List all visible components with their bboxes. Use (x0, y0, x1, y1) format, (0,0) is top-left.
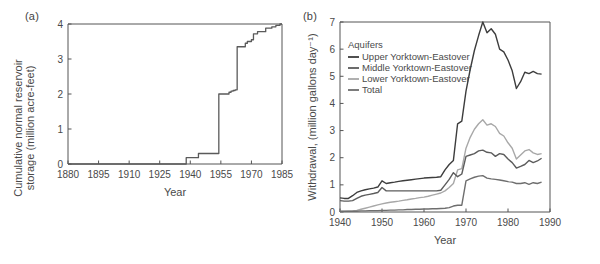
panel-b-y-axis-title: Withdrawal, (million gallons day⁻¹) (306, 33, 318, 200)
panel-a-x-tick-label: 1880 (57, 169, 80, 180)
panel-b-y-tick-label: 4 (329, 98, 335, 109)
panel-a-x-tick-label: 1895 (87, 169, 110, 180)
panel-b-y-tick-label: 0 (329, 207, 335, 218)
panel-a-x-tick-label: 1985 (271, 169, 294, 180)
panel-a: (a) 012341880189519101925194019551970198… (0, 0, 300, 264)
panel-a-x-tick-label: 1910 (118, 169, 141, 180)
panel-b-y-tick-label: 6 (329, 44, 335, 55)
panel-b-x-tick-label: 1980 (497, 217, 520, 228)
panel-a-y-tick-label: 3 (57, 54, 63, 65)
panel-b: (b) 01234567194019501960197019801990Aqui… (300, 0, 600, 264)
panel-b-y-tick-label: 7 (329, 17, 335, 28)
panel-b-y-tick-label: 5 (329, 71, 335, 82)
panel-a-x-tick-label: 1940 (179, 169, 202, 180)
panel-b-plot: 01234567194019501960197019801990Aquifers… (300, 0, 600, 264)
panel-b-x-tick-label: 1940 (329, 217, 352, 228)
legend-title: Aquifers (348, 39, 383, 50)
panel-b-x-tick-label: 1990 (539, 217, 562, 228)
panel-b-y-tick-label: 2 (329, 152, 335, 163)
legend-label-0: Upper Yorktown-Eastover (362, 51, 470, 62)
panel-b-series-lower-yorktown-eastover (340, 120, 542, 212)
panel-a-y-tick-label: 2 (57, 89, 63, 100)
panel-b-x-tick-label: 1970 (455, 217, 478, 228)
panel-a-x-tick-label: 1925 (149, 169, 172, 180)
panel-a-x-tick-label: 1970 (240, 169, 263, 180)
legend-label-2: Lower Yorktown-Eastover (362, 73, 470, 84)
panel-a-y-axis-title-line2: storage (million acre-feet) (24, 66, 36, 191)
panel-a-plot: 0123418801895191019251940195519701985Yea… (0, 0, 300, 264)
panel-a-x-tick-label: 1955 (210, 169, 233, 180)
panel-a-y-axis-title-line1: Cumulative normal reservoir (12, 59, 24, 197)
panel-a-storage-curve (68, 24, 282, 164)
figure-container: (a) 012341880189519101925194019551970198… (0, 0, 600, 264)
panel-a-y-tick-label: 4 (57, 19, 63, 30)
panel-a-axis-frame (68, 24, 282, 164)
panel-b-x-tick-label: 1950 (371, 217, 394, 228)
panel-b-y-tick-label: 1 (329, 179, 335, 190)
panel-b-x-axis-title: Year (434, 234, 457, 246)
panel-b-y-tick-label: 3 (329, 125, 335, 136)
legend-label-3: Total (362, 84, 382, 95)
panel-b-x-tick-label: 1960 (413, 217, 436, 228)
panel-a-y-tick-label: 1 (57, 124, 63, 135)
panel-a-x-axis-title: Year (164, 186, 187, 198)
legend-label-1: Middle Yorktown-Eastover (362, 62, 472, 73)
panel-a-y-tick-label: 0 (57, 159, 63, 170)
